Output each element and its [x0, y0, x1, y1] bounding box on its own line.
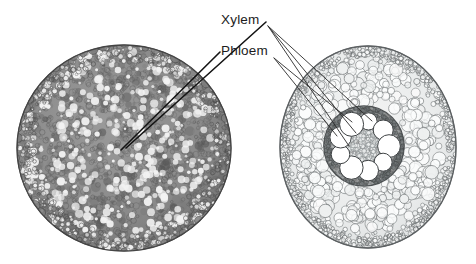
- label-phloem: Phloem: [221, 43, 268, 58]
- micrograph-canvas: Xylem Phloem: [0, 0, 476, 264]
- label-xylem: Xylem: [221, 12, 260, 27]
- root-cross-section-figure: Xylem Phloem: [0, 0, 476, 264]
